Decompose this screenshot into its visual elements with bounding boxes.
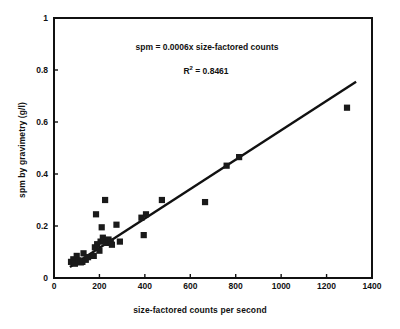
- x-tick-label: 1200: [307, 281, 347, 291]
- data-point-marker: [96, 248, 102, 254]
- x-tick-label: 400: [125, 281, 165, 291]
- data-point-marker: [202, 199, 208, 205]
- y-axis-title: spm by gravimetry (g/l): [17, 70, 27, 230]
- data-point-markers: [68, 105, 350, 267]
- regression-equation-annotation: spm = 0.0006x size-factored counts: [0, 42, 400, 52]
- data-point-marker: [117, 239, 123, 245]
- data-point-marker: [344, 105, 350, 111]
- data-point-marker: [236, 154, 242, 160]
- y-tick-label: 0: [18, 273, 48, 283]
- chart-figure: 0200400600800100012001400 00.20.40.60.81…: [0, 0, 400, 329]
- data-point-marker: [91, 253, 97, 259]
- x-tick-label: 1000: [261, 281, 301, 291]
- data-point-marker: [93, 211, 99, 217]
- data-point-marker: [102, 197, 108, 203]
- data-point-marker: [159, 197, 165, 203]
- data-point-marker: [85, 254, 91, 260]
- x-tick-label: 600: [170, 281, 210, 291]
- x-axis-title: size-factored counts per second: [0, 305, 400, 315]
- r-squared-value: = 0.8461: [193, 66, 229, 76]
- y-tick-label: 1: [18, 13, 48, 23]
- data-point-marker: [143, 211, 149, 217]
- data-point-marker: [99, 224, 105, 230]
- x-tick-label: 200: [79, 281, 119, 291]
- data-point-marker: [141, 232, 147, 238]
- x-tick-label: 800: [216, 281, 256, 291]
- data-point-marker: [224, 163, 230, 169]
- r-squared-annotation: R2 = 0.8461: [0, 65, 400, 76]
- data-point-marker: [109, 242, 115, 248]
- data-point-marker: [113, 222, 119, 228]
- x-tick-label: 1400: [352, 281, 392, 291]
